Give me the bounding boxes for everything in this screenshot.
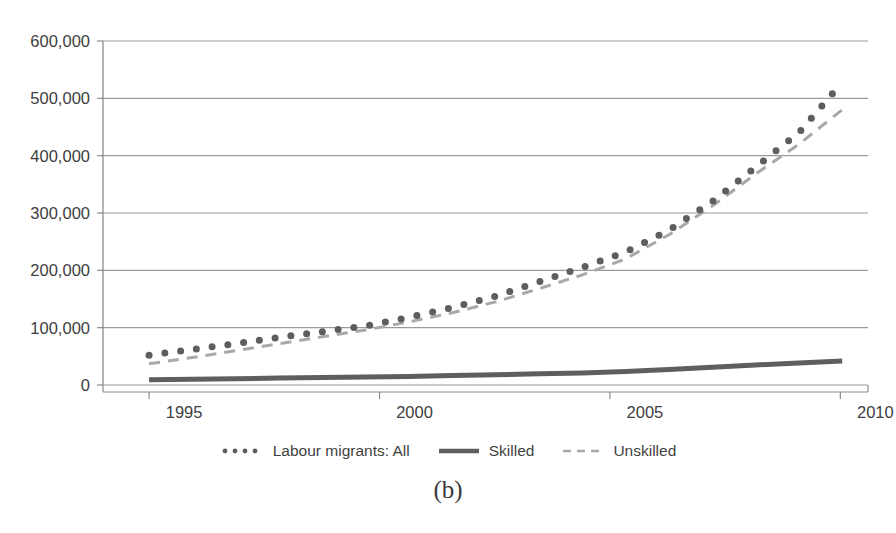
data-point-marker [146, 352, 153, 359]
legend-label-skilled: Skilled [489, 442, 535, 460]
data-point-marker [240, 339, 247, 346]
series-line-skilled [149, 361, 842, 380]
data-point-marker [272, 334, 279, 341]
data-point-marker [382, 319, 389, 326]
data-point-marker [818, 102, 825, 109]
legend-label-unskilled: Unskilled [613, 442, 676, 460]
data-point-marker [670, 224, 677, 231]
figure-caption: (b) [0, 476, 896, 504]
chart-legend: Labour migrants: All Skilled Unskilled [0, 436, 896, 466]
data-point-marker [582, 263, 589, 270]
data-point-marker [445, 305, 452, 312]
data-point-marker [808, 115, 815, 122]
y-axis-tick-labels-group: 0100,000200,000300,000400,000500,000600,… [30, 32, 90, 394]
data-point-marker [536, 278, 543, 285]
legend-swatch-dotted-icon [220, 445, 266, 457]
data-point-marker [319, 328, 326, 335]
data-point-marker [161, 350, 168, 357]
data-point-marker [209, 343, 216, 350]
y-axis-tick-label: 400,000 [30, 147, 90, 165]
x-axis-tick-label: 2010 [857, 403, 894, 420]
legend-item-labour-migrants-all: Labour migrants: All [220, 442, 410, 460]
legend-swatch-dashed-icon [560, 445, 606, 457]
data-point-marker [366, 322, 373, 329]
y-axis-tick-label: 600,000 [30, 32, 90, 50]
data-point-marker [177, 348, 184, 355]
data-point-marker [710, 197, 717, 204]
y-axis-ticks-group [97, 41, 103, 385]
data-point-marker [506, 288, 513, 295]
y-axis-tick-label: 300,000 [30, 204, 90, 222]
legend-item-skilled: Skilled [436, 442, 535, 460]
series-skilled [149, 361, 842, 380]
x-axis-tick-label: 2000 [396, 403, 433, 420]
data-point-marker [612, 252, 619, 259]
data-point-marker [722, 187, 729, 194]
data-point-marker [829, 90, 836, 97]
data-point-marker [413, 312, 420, 319]
data-point-marker [773, 147, 780, 154]
data-point-marker [350, 324, 357, 331]
data-point-marker [491, 293, 498, 300]
data-point-marker [398, 315, 405, 322]
data-point-marker [460, 301, 467, 308]
legend-swatch-solid-icon [436, 445, 482, 457]
series-unskilled [149, 110, 842, 364]
x-axis-tick-label: 2005 [627, 403, 664, 420]
data-point-marker [696, 206, 703, 213]
data-point-marker [476, 297, 483, 304]
legend-label-labour-migrants-all: Labour migrants: All [273, 442, 410, 460]
series-labour-migrants-all [146, 90, 836, 358]
data-point-marker [287, 332, 294, 339]
data-point-marker [797, 127, 804, 134]
y-axis-tick-label: 500,000 [30, 89, 90, 107]
data-point-marker [641, 239, 648, 246]
data-point-marker [627, 246, 634, 253]
legend-item-unskilled: Unskilled [560, 442, 676, 460]
x-axis-tick-label: 1995 [166, 403, 203, 420]
gridlines-group [103, 41, 868, 385]
data-point-marker [747, 167, 754, 174]
x-axis-tick-labels-group: 1995200020052010 [166, 403, 894, 420]
chart-plot-area: 0100,000200,000300,000400,000500,000600,… [0, 0, 896, 420]
y-axis-tick-label: 100,000 [30, 319, 90, 337]
data-point-marker [785, 137, 792, 144]
y-axis-tick-label: 0 [81, 376, 90, 394]
data-point-marker [521, 283, 528, 290]
data-point-marker [760, 157, 767, 164]
series-line-unskilled [149, 110, 842, 364]
data-point-marker [655, 232, 662, 239]
data-point-marker [193, 345, 200, 352]
data-point-marker [429, 309, 436, 316]
data-point-marker [683, 215, 690, 222]
data-point-marker [735, 177, 742, 184]
line-chart-svg: 0100,000200,000300,000400,000500,000600,… [0, 0, 896, 420]
data-point-marker [335, 326, 342, 333]
data-point-marker [551, 273, 558, 280]
data-point-marker [567, 268, 574, 275]
y-axis-tick-label: 200,000 [30, 261, 90, 279]
figure-panel-b: 0100,000200,000300,000400,000500,000600,… [0, 0, 896, 533]
data-point-marker [224, 341, 231, 348]
data-point-marker [256, 337, 263, 344]
data-point-marker [303, 330, 310, 337]
data-point-marker [597, 258, 604, 265]
